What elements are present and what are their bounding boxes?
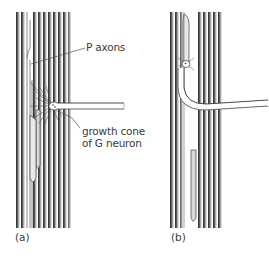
g-neuron-axon-a — [57, 103, 124, 109]
axon-bundle-right-b — [198, 12, 222, 228]
p-axon-process-b — [183, 12, 196, 228]
panel-label-a: (a) — [15, 231, 30, 243]
panel-b — [170, 12, 268, 228]
panel-label-b: (b) — [171, 231, 186, 243]
label-growth-cone-line2: of G neuron — [82, 137, 142, 149]
label-growth-cone-line1: growth cone — [82, 125, 145, 137]
axon-bundle-left-a — [16, 12, 25, 228]
label-p-axons: P axons — [86, 41, 125, 53]
figure: P axons growth cone of G neuron (a) (b) — [0, 0, 269, 258]
g-neuron-axon-b — [178, 68, 268, 110]
axon-bundle-left-b — [170, 12, 183, 228]
